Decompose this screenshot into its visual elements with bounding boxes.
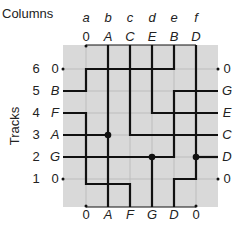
column-label: c — [127, 11, 134, 25]
right-terminal: 0 — [223, 172, 230, 186]
column-label: e — [170, 11, 177, 25]
column-label: f — [194, 11, 198, 25]
right-terminal: C — [222, 128, 231, 142]
track-number: 1 — [32, 172, 39, 186]
right-terminal: G — [222, 84, 232, 98]
bottom-terminal: F — [126, 208, 134, 222]
bottom-terminal: A — [104, 208, 113, 222]
top-terminal: C — [125, 30, 134, 44]
track-number: 4 — [32, 106, 39, 120]
track-number: 5 — [32, 84, 39, 98]
top-terminal: B — [170, 30, 179, 44]
column-label: b — [104, 11, 111, 25]
left-terminal: F — [51, 106, 59, 120]
left-terminal: A — [51, 128, 60, 142]
top-terminal: E — [148, 30, 157, 44]
right-terminal: E — [223, 106, 232, 120]
column-label: a — [82, 11, 89, 25]
bottom-terminal: D — [169, 208, 178, 222]
column-label: d — [148, 11, 155, 25]
bottom-terminal: G — [147, 208, 157, 222]
left-terminal: G — [50, 150, 60, 164]
right-terminal: D — [222, 150, 231, 164]
left-terminal: 0 — [51, 172, 58, 186]
top-terminal: 0 — [82, 30, 89, 44]
bottom-terminal: 0 — [82, 208, 89, 222]
top-terminal: A — [104, 30, 113, 44]
track-number: 6 — [32, 62, 39, 76]
left-terminal: 0 — [51, 62, 58, 76]
right-terminal: 0 — [223, 62, 230, 76]
left-terminal: B — [51, 84, 60, 98]
track-number: 3 — [32, 128, 39, 142]
top-terminal: D — [191, 30, 200, 44]
track-number: 2 — [32, 150, 39, 164]
bottom-terminal: 0 — [192, 208, 199, 222]
